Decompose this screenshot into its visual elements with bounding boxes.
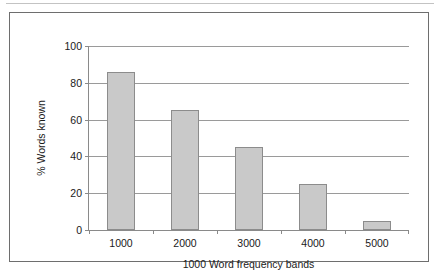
x-tick-mark-3 xyxy=(281,230,282,234)
x-tick-mark-2 xyxy=(217,230,218,234)
bar-3000 xyxy=(235,147,264,230)
y-tick-mark-20 xyxy=(85,193,89,194)
x-tick-label-5000: 5000 xyxy=(365,237,388,249)
x-tick-label-2000: 2000 xyxy=(173,237,196,249)
bar-5000 xyxy=(363,221,392,230)
y-tick-mark-80 xyxy=(85,83,89,84)
y-tick-label-40: 40 xyxy=(70,150,82,162)
y-tick-label-80: 80 xyxy=(70,77,82,89)
x-axis-title: 1000 Word frequency bands xyxy=(88,258,409,270)
x-tick-mark-0 xyxy=(89,230,90,234)
x-tick-label-1000: 1000 xyxy=(109,237,132,249)
gridline-y-100 xyxy=(89,46,409,47)
chart-figure-frame: % Words known 02040608010010002000300040… xyxy=(9,12,429,262)
bar-4000 xyxy=(299,184,328,230)
gridline-y-60 xyxy=(89,120,409,121)
y-tick-label-100: 100 xyxy=(64,40,82,52)
gridline-y-80 xyxy=(89,83,409,84)
x-tick-mark-4 xyxy=(345,230,346,234)
bar-2000 xyxy=(171,110,200,230)
x-tick-label-4000: 4000 xyxy=(301,237,324,249)
x-tick-mark-5 xyxy=(408,230,409,234)
y-tick-label-60: 60 xyxy=(70,114,82,126)
y-tick-mark-100 xyxy=(85,46,89,47)
plot-area: 02040608010010002000300040005000 xyxy=(88,46,409,231)
bar-1000 xyxy=(107,72,136,230)
page-top-rule xyxy=(6,3,434,4)
y-tick-label-20: 20 xyxy=(70,187,82,199)
y-tick-label-0: 0 xyxy=(76,224,82,236)
y-tick-mark-60 xyxy=(85,120,89,121)
y-axis-title: % Words known xyxy=(35,100,47,176)
x-tick-label-3000: 3000 xyxy=(237,237,260,249)
y-tick-mark-40 xyxy=(85,156,89,157)
x-tick-mark-1 xyxy=(153,230,154,234)
